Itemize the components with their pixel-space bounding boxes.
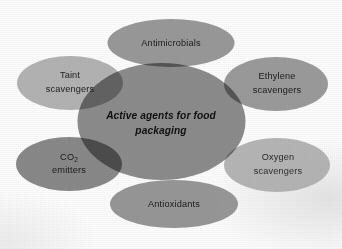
label-antioxidants: Antioxidants (148, 199, 200, 209)
label-taint-scavengers-line2: scavengers (46, 84, 95, 94)
label-oxygen-scavengers-line1: Oxygen (262, 152, 295, 162)
label-ethylene-scavengers-line1: Ethylene (259, 71, 296, 81)
ellipse-co2-emitters (16, 137, 122, 191)
label-co2-emitters-line2: emitters (52, 165, 86, 175)
label-co2-subscript: 2 (74, 156, 78, 163)
label-antimicrobials: Antimicrobials (141, 38, 201, 48)
label-taint-scavengers-line1: Taint (60, 70, 80, 80)
label-ethylene-scavengers-line2: scavengers (253, 85, 302, 95)
diagram-canvas: Antimicrobials Taint scavengers Ethylene… (0, 0, 342, 249)
label-co2-prefix: CO (60, 152, 74, 162)
label-center-line2: packaging (134, 125, 187, 136)
venn-diagram: Antimicrobials Taint scavengers Ethylene… (0, 0, 342, 249)
label-oxygen-scavengers-line2: scavengers (254, 166, 303, 176)
label-center-line1: Active agents for food (105, 110, 216, 121)
